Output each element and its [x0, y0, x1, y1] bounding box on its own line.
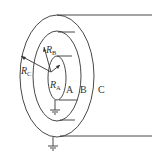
coaxial-cylinder-diagram: RB RC RA A B C: [0, 0, 164, 163]
radius-a-arrowhead: [56, 65, 60, 69]
label-radius-b: RB: [45, 44, 57, 56]
label-region-c: C: [98, 84, 105, 95]
label-radius-c: RC: [20, 65, 31, 77]
label-radius-a: RA: [49, 79, 61, 91]
cylinder-b-face: [33, 31, 81, 121]
label-region-a: A: [66, 84, 74, 95]
label-region-b: B: [80, 84, 87, 95]
diagram-canvas: RB RC RA A B C: [0, 0, 164, 163]
cylinder-a-face: [48, 56, 66, 100]
